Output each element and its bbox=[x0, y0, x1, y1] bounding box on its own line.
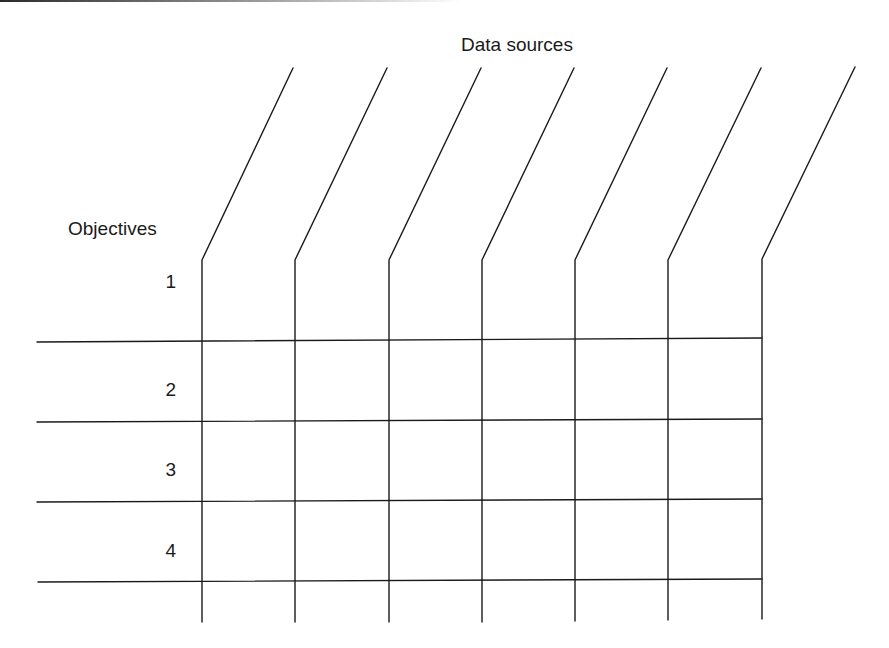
column-line-6 bbox=[668, 68, 761, 620]
row-label-3: 3 bbox=[146, 460, 176, 479]
row-line-4 bbox=[38, 579, 762, 582]
column-header-data-sources: Data sources bbox=[461, 35, 573, 54]
column-line-2 bbox=[295, 68, 387, 622]
row-label-1: 1 bbox=[146, 272, 176, 291]
column-line-7 bbox=[762, 67, 855, 619]
row-line-3 bbox=[37, 499, 762, 502]
column-line-5 bbox=[575, 68, 667, 621]
row-label-2: 2 bbox=[146, 380, 176, 399]
column-line-3 bbox=[389, 68, 481, 622]
matrix-grid bbox=[0, 0, 889, 648]
row-label-4: 4 bbox=[146, 541, 176, 560]
row-header-objectives: Objectives bbox=[68, 219, 157, 238]
row-line-1 bbox=[37, 338, 762, 342]
column-line-1 bbox=[202, 68, 293, 622]
row-line-2 bbox=[37, 419, 762, 422]
column-line-4 bbox=[482, 68, 574, 622]
